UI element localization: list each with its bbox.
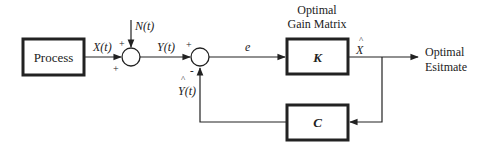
gain-title-line1: Optimal [297, 3, 337, 17]
kalman-filter-diagram: Process X(t) N(t) + + Y(t) + - ^ Y(t) e … [0, 0, 490, 152]
gain-title-line2: Gain Matrix [288, 17, 347, 31]
x-t-label: X(t) [92, 40, 112, 54]
process-label: Process [34, 50, 74, 65]
output-label-line1: Optimal [425, 45, 465, 59]
y-hat-t-label: Y(t) [178, 84, 196, 98]
y-hat-accent: ^ [181, 74, 186, 84]
k-label: K [312, 50, 323, 65]
y-t-label: Y(t) [157, 40, 175, 54]
observation-block: C [287, 105, 348, 140]
sum2-plus-top: + [186, 39, 192, 50]
summing-junction-1 [122, 48, 140, 66]
feedback-to-sum2-line [200, 68, 287, 122]
gain-block: Optimal Gain Matrix K [287, 3, 348, 74]
x-hat-label: X [355, 43, 364, 57]
e-label: e [245, 40, 251, 54]
output-label-line2: Esitmate [425, 60, 467, 74]
summing-junction-2 [191, 48, 209, 66]
sum1-plus-top: + [119, 38, 125, 49]
feedback-to-c-line [350, 57, 382, 122]
sum1-plus-left: + [113, 63, 119, 74]
c-label: C [313, 115, 322, 130]
process-block: Process [23, 39, 84, 75]
n-t-label: N(t) [134, 19, 154, 33]
sum2-minus-bottom: - [190, 64, 194, 76]
